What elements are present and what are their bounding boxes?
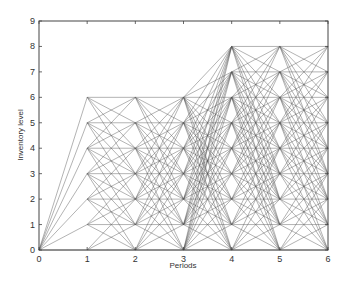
x-tick-label: 0 [36,254,41,264]
network-edge [184,72,232,97]
network-edge [39,225,87,250]
network-edge [280,72,328,199]
y-tick-label: 4 [30,143,35,153]
network-edge [232,72,280,199]
y-tick-label: 5 [30,118,35,128]
network-edge [232,97,280,224]
x-tick-label: 2 [133,254,138,264]
network-edge [39,123,87,250]
x-tick-label: 4 [229,254,234,264]
y-tick-label: 6 [30,92,35,102]
y-tick-label: 7 [30,67,35,77]
x-axis-label: Periods [169,261,196,270]
network-edge [87,148,135,224]
network-edge [39,148,87,250]
network-edge [39,199,87,250]
network-edge [39,97,87,250]
y-tick-label: 3 [30,169,35,179]
y-tick-label: 9 [30,16,35,26]
x-tick-label: 5 [277,254,282,264]
y-tick-label: 0 [30,245,35,255]
network-edge [232,123,280,250]
network-edge [232,46,280,173]
y-tick-label: 1 [30,220,35,230]
y-axis-label: Inventory level [16,109,25,161]
network-edge [87,123,135,199]
network-edges [39,46,328,250]
network-edge [280,46,328,173]
y-tick-label: 2 [30,194,35,204]
axis-ticks: 01234560123456789 [30,16,331,264]
network-edge [39,174,87,250]
y-tick-label: 8 [30,41,35,51]
network-edge [87,174,135,250]
network-edge [280,97,328,224]
network-edge [87,97,135,173]
inventory-network-chart: 01234560123456789 Periods Inventory leve… [0,0,348,288]
x-tick-label: 6 [325,254,330,264]
network-edge [184,46,232,97]
network-edge [280,123,328,250]
x-tick-label: 1 [85,254,90,264]
